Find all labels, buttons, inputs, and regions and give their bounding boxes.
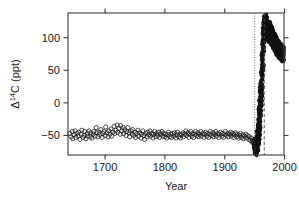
x-tick-label: 1900 [213, 161, 237, 173]
x-tick-label: 2000 [272, 161, 296, 173]
x-tick-label: 1800 [153, 161, 177, 173]
y-tick-label: 0 [54, 97, 60, 109]
data-point [262, 45, 265, 48]
y-tick-label: 50 [48, 64, 60, 76]
data-point [258, 128, 261, 131]
delta-14c-scatter-chart: 1700180019002000−50050100 Year Δ14C (ppt… [0, 0, 299, 204]
chart-background [0, 0, 299, 204]
y-tick-label: 100 [42, 32, 60, 44]
y-axis-title-superscript: 14 [8, 93, 17, 101]
y-axis-title-rest: C (ppt) [9, 59, 21, 93]
data-point [257, 143, 260, 146]
figure-container: 1700180019002000−50050100 Year Δ14C (ppt… [0, 0, 299, 204]
y-tick-label: −50 [41, 129, 60, 141]
x-axis-title: Year [165, 180, 188, 192]
data-point [260, 74, 263, 77]
x-tick-label: 1700 [93, 161, 117, 173]
data-point [258, 120, 261, 123]
